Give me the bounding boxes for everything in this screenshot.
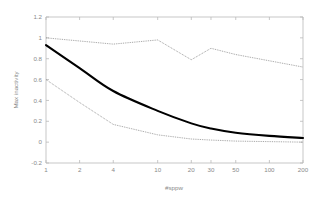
- y-tick-label: -0.2: [31, 159, 42, 166]
- y-axis-ticks: -0.200.20.40.60.811.2: [31, 13, 303, 166]
- x-tick-label: 30: [208, 166, 215, 173]
- x-tick-label: 2: [78, 166, 82, 173]
- x-tick-label: 100: [264, 166, 275, 173]
- x-tick-label: 50: [232, 166, 239, 173]
- x-axis-label: #sppw: [165, 184, 183, 191]
- axes-frame: [46, 17, 303, 163]
- y-tick-label: 0: [39, 138, 43, 145]
- x-tick-label: 10: [154, 166, 161, 173]
- y-tick-label: 0.6: [33, 76, 42, 83]
- series-line-lower-bound: [46, 80, 303, 143]
- x-axis-ticks: 12410203050100200: [44, 17, 308, 173]
- chart-figure: 12410203050100200 -0.200.20.40.60.811.2 …: [0, 0, 322, 199]
- x-tick-label: 4: [112, 166, 116, 173]
- y-tick-label: 0.2: [33, 117, 42, 124]
- x-tick-label: 20: [188, 166, 195, 173]
- x-tick-label: 200: [298, 166, 309, 173]
- y-axis-label: Max inactivity: [12, 71, 19, 109]
- series-line-upper-bound: [46, 38, 303, 67]
- y-tick-label: 0.4: [33, 97, 42, 104]
- y-tick-label: 0.8: [33, 55, 42, 62]
- series-layer: [46, 38, 303, 142]
- y-tick-label: 1: [39, 34, 43, 41]
- y-tick-label: 1.2: [33, 13, 42, 20]
- series-line-mean: [46, 45, 303, 138]
- x-tick-label: 1: [44, 166, 48, 173]
- chart-plot-area: 12410203050100200 -0.200.20.40.60.811.2 …: [0, 0, 322, 199]
